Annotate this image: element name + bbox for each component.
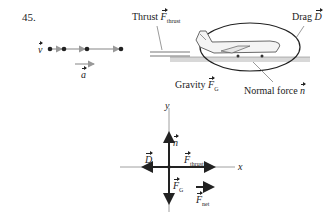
x-axis-label: x <box>238 162 242 172</box>
problem-number: 45. <box>22 12 36 23</box>
thrust-vector-label: Fthrust <box>184 155 204 167</box>
gravity-label: Gravity FG <box>175 80 219 92</box>
free-body-diagram <box>120 108 235 212</box>
drag-label: Drag D <box>292 12 322 22</box>
net-force-label: Fnet <box>196 195 209 207</box>
motion-diagram <box>48 47 124 64</box>
normal-force-vector-label: n <box>173 138 178 148</box>
gravity-vector-label: FG <box>173 181 183 193</box>
drag-vector-label: D <box>145 155 152 165</box>
airplane-scene <box>150 23 310 82</box>
thrust-label: Thrust Fthrust <box>132 12 180 24</box>
y-axis-label: y <box>165 101 169 111</box>
velocity-label: v <box>38 45 42 55</box>
acceleration-label: a <box>81 70 86 80</box>
normal-force-label: Normal force n <box>244 86 305 96</box>
